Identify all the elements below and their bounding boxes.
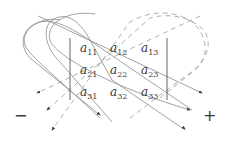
matrix-entries: a11 a12 a13 a21 a22 a23 a31 a32 a33 <box>80 41 158 101</box>
entry-a33: a33 <box>141 85 158 101</box>
entry-a12: a12 <box>110 41 127 57</box>
entry-a13: a13 <box>141 41 158 57</box>
entry-a22: a22 <box>110 63 127 79</box>
entry-a21: a21 <box>80 63 97 79</box>
negative-diagonal-loop-2 <box>52 13 205 130</box>
negative-diagonal-loop-1 <box>47 16 208 118</box>
sarrus-diagram: a11 a12 a13 a21 a22 a23 a31 a32 a33 − + <box>0 0 230 146</box>
negative-sign: − <box>14 106 27 125</box>
entry-a23: a23 <box>141 63 158 79</box>
entry-a31: a31 <box>80 85 97 101</box>
positive-sign: + <box>203 106 216 125</box>
